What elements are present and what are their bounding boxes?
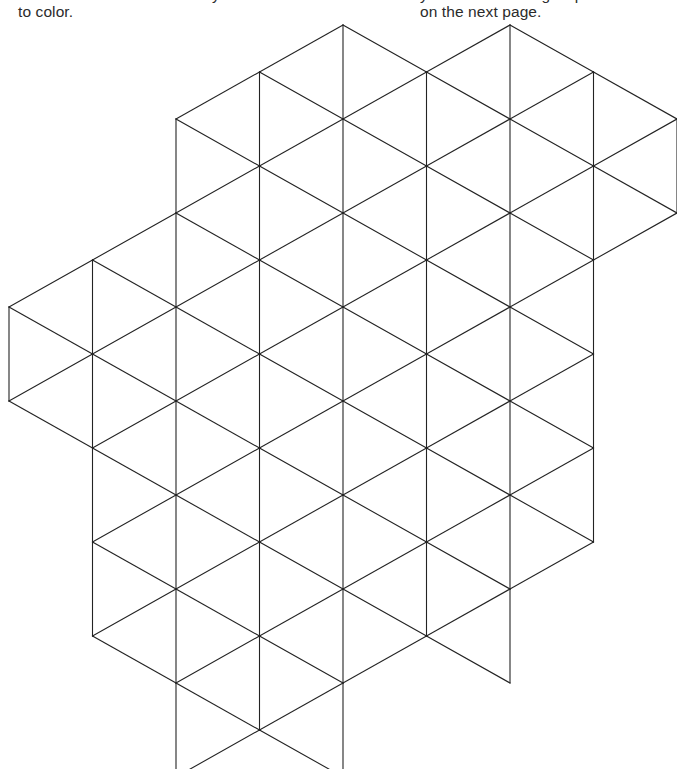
triangle-lattice-artwork <box>0 0 677 769</box>
caption-left-text: to color. <box>18 2 73 21</box>
coloring-page: y your colored triangles p to color. on … <box>0 0 677 769</box>
caption-right-text: on the next page. <box>420 2 542 21</box>
lattice-edge-group <box>9 25 677 769</box>
cropped-caption-middle: y <box>212 0 220 4</box>
